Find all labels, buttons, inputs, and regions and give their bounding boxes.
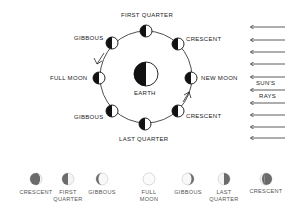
appearance-label: CRESCENT: [246, 188, 286, 195]
appearance-crescent-icon: [30, 173, 42, 185]
appearance-crescent-icon: [260, 173, 272, 185]
moon-last-quarter-icon: [139, 118, 151, 130]
appearance-label-line2: MOON: [129, 196, 169, 203]
appearance-label: GIBBOUS: [82, 189, 122, 196]
moon-crescent-top-icon: [172, 38, 184, 50]
appearance-gibbous-icon: [182, 173, 194, 185]
moon-gibbous-bottom-icon: [106, 105, 118, 117]
appearance-label-line1: GIBBOUS: [82, 189, 122, 196]
moon-crescent-bottom-icon: [172, 105, 184, 117]
label-new-moon: NEW MOON: [201, 75, 238, 82]
appearance-gibbous-icon: [96, 173, 108, 185]
appearance-label-line2: QUARTER: [204, 196, 244, 203]
moon-first-quarter-icon: [140, 25, 152, 37]
appearance-label-line2: QUARTER: [48, 196, 88, 203]
label-gibbous-top: GIBBOUS: [74, 35, 103, 42]
moon-gibbous-top-icon: [106, 37, 118, 49]
label-full-moon: FULL MOON: [50, 75, 87, 82]
moon-new-moon-icon: [185, 72, 197, 84]
diagram-canvas: [0, 0, 308, 210]
appearance-label-line1: FULL: [129, 189, 169, 196]
moon-full-moon-icon: [93, 72, 105, 84]
label-suns: SUN'S: [256, 80, 275, 87]
appearance-label-line1: GIBBOUS: [168, 189, 208, 196]
appearance-label-line1: LAST: [204, 189, 244, 196]
label-gibbous-bottom: GIBBOUS: [74, 114, 103, 121]
label-last-quarter: LAST QUARTER: [119, 136, 168, 143]
appearance-label: FULL MOON: [129, 189, 169, 203]
appearance-label: GIBBOUS: [168, 189, 208, 196]
appearance-last-quarter-icon: [218, 173, 230, 185]
moon-phases-diagram: FIRST QUARTER CRESCENT NEW MOON CRESCENT…: [0, 0, 308, 210]
appearance-label: LAST QUARTER: [204, 189, 244, 203]
label-crescent-bottom: CRESCENT: [186, 113, 221, 120]
appearance-label-line1: CRESCENT: [246, 188, 286, 195]
label-earth: EARTH: [134, 90, 156, 97]
label-first-quarter: FIRST QUARTER: [121, 12, 173, 19]
appearance-first-quarter-icon: [62, 173, 74, 185]
appearance-full-moon-icon: [143, 173, 155, 185]
earth-icon: [134, 62, 158, 86]
label-rays: RAYS: [259, 93, 276, 100]
label-crescent-top: CRESCENT: [186, 36, 221, 43]
